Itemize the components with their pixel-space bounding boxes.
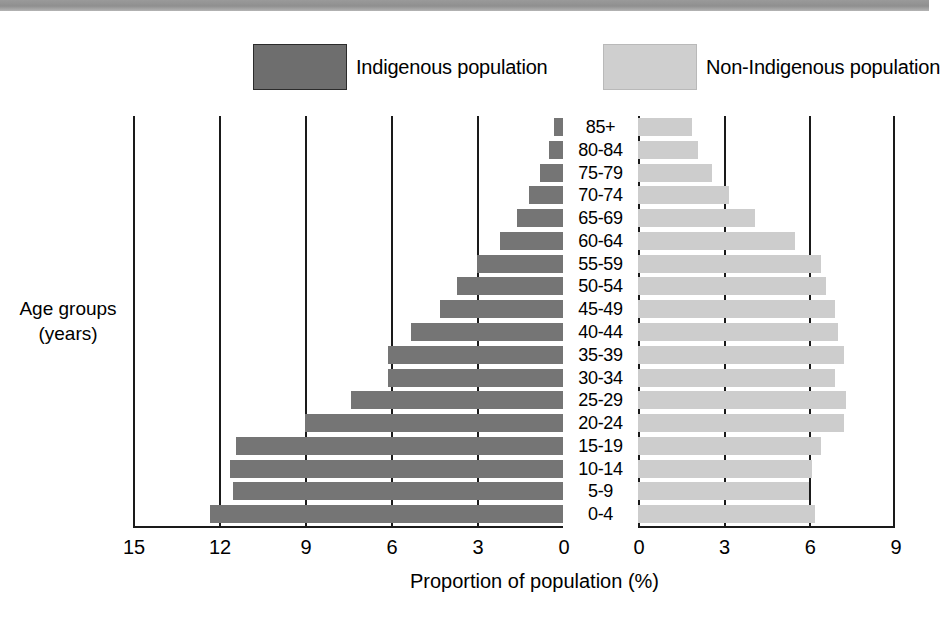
bar-row-indigenous-10-14 <box>133 458 563 481</box>
bar-row-nonindigenous-70-74 <box>638 184 895 207</box>
tick-label-left-12: 12 <box>200 536 240 559</box>
bar-row-indigenous-0-4 <box>133 503 563 526</box>
bar-indigenous-60-64 <box>500 232 563 250</box>
bar-indigenous-80-84 <box>549 141 563 159</box>
age-group-label-65-69: 65-69 <box>563 207 638 230</box>
age-group-label-55-59: 55-59 <box>563 253 638 276</box>
tick-label-left-0: 0 <box>544 536 584 559</box>
bar-indigenous-55-59 <box>477 255 563 273</box>
bar-nonindigenous-0-4 <box>638 505 815 523</box>
bar-row-nonindigenous-45-49 <box>638 298 895 321</box>
bar-indigenous-0-4 <box>210 505 563 523</box>
age-group-label-70-74: 70-74 <box>563 184 638 207</box>
bar-row-indigenous-25-29 <box>133 389 563 412</box>
age-group-label-50-54: 50-54 <box>563 275 638 298</box>
y-axis-title-line1: Age groups <box>8 296 128 321</box>
legend-swatch-nonindigenous <box>603 44 697 90</box>
bar-indigenous-85+ <box>554 118 563 136</box>
age-group-label-45-49: 45-49 <box>563 298 638 321</box>
bar-row-indigenous-5-9 <box>133 480 563 503</box>
bar-nonindigenous-30-34 <box>638 369 835 387</box>
age-group-label-20-24: 20-24 <box>563 412 638 435</box>
bar-indigenous-15-19 <box>236 437 563 455</box>
bar-row-nonindigenous-35-39 <box>638 344 895 367</box>
age-group-label-60-64: 60-64 <box>563 230 638 253</box>
bar-nonindigenous-20-24 <box>638 414 844 432</box>
bar-indigenous-10-14 <box>230 460 563 478</box>
bar-indigenous-50-54 <box>457 277 563 295</box>
age-group-label-35-39: 35-39 <box>563 344 638 367</box>
bar-row-indigenous-60-64 <box>133 230 563 253</box>
bar-row-indigenous-80-84 <box>133 139 563 162</box>
bar-row-nonindigenous-20-24 <box>638 412 895 435</box>
bar-indigenous-35-39 <box>388 346 563 364</box>
bar-nonindigenous-85+ <box>638 118 692 136</box>
tick-label-right-3: 3 <box>705 536 745 559</box>
tick-label-right-0: 0 <box>619 536 659 559</box>
legend-label-nonindigenous: Non-Indigenous population <box>706 56 940 79</box>
bar-nonindigenous-55-59 <box>638 255 821 273</box>
bar-row-indigenous-20-24 <box>133 412 563 435</box>
y-axis-title-line2: (years) <box>8 321 128 346</box>
legend-swatch-indigenous <box>253 44 347 90</box>
tick-label-left-9: 9 <box>286 536 326 559</box>
tick-label-right-6: 6 <box>790 536 830 559</box>
bar-nonindigenous-5-9 <box>638 482 809 500</box>
bar-nonindigenous-65-69 <box>638 209 755 227</box>
bar-row-nonindigenous-15-19 <box>638 435 895 458</box>
tick-label-right-9: 9 <box>876 536 916 559</box>
bar-row-nonindigenous-75-79 <box>638 162 895 185</box>
top-banner <box>0 0 929 11</box>
bar-indigenous-30-34 <box>388 369 563 387</box>
bar-indigenous-45-49 <box>440 300 563 318</box>
bar-nonindigenous-50-54 <box>638 277 826 295</box>
legend-item-nonindigenous: Non-Indigenous population <box>603 44 940 90</box>
bar-nonindigenous-15-19 <box>638 437 821 455</box>
bar-nonindigenous-40-44 <box>638 323 838 341</box>
age-group-label-80-84: 80-84 <box>563 139 638 162</box>
bar-row-indigenous-75-79 <box>133 162 563 185</box>
bar-row-indigenous-65-69 <box>133 207 563 230</box>
bar-row-indigenous-55-59 <box>133 253 563 276</box>
tick-label-left-6: 6 <box>372 536 412 559</box>
x-axis-title: Proportion of population (%) <box>0 570 929 593</box>
bar-row-nonindigenous-50-54 <box>638 275 895 298</box>
age-group-label-0-4: 0-4 <box>563 503 638 526</box>
tick-label-left-3: 3 <box>458 536 498 559</box>
bar-row-indigenous-30-34 <box>133 367 563 390</box>
age-group-label-25-29: 25-29 <box>563 389 638 412</box>
bar-row-nonindigenous-55-59 <box>638 253 895 276</box>
bar-nonindigenous-75-79 <box>638 164 712 182</box>
bar-nonindigenous-45-49 <box>638 300 835 318</box>
bar-row-indigenous-85+ <box>133 116 563 139</box>
age-group-label-30-34: 30-34 <box>563 367 638 390</box>
bar-row-nonindigenous-25-29 <box>638 389 895 412</box>
bar-indigenous-5-9 <box>233 482 563 500</box>
bar-row-nonindigenous-65-69 <box>638 207 895 230</box>
bars-indigenous <box>133 116 563 526</box>
age-group-labels: 85+80-8475-7970-7465-6960-6455-5950-5445… <box>563 116 638 528</box>
chart-legend: Indigenous population Non-Indigenous pop… <box>0 44 929 90</box>
bar-nonindigenous-60-64 <box>638 232 795 250</box>
bar-row-nonindigenous-0-4 <box>638 503 895 526</box>
bar-nonindigenous-80-84 <box>638 141 698 159</box>
bar-row-nonindigenous-30-34 <box>638 367 895 390</box>
age-group-label-40-44: 40-44 <box>563 321 638 344</box>
age-group-label-5-9: 5-9 <box>563 480 638 503</box>
bar-indigenous-65-69 <box>517 209 563 227</box>
legend-item-indigenous: Indigenous population <box>253 44 548 90</box>
bar-indigenous-25-29 <box>351 391 563 409</box>
bars-nonindigenous <box>638 116 895 526</box>
age-group-label-85+: 85+ <box>563 116 638 139</box>
bar-row-nonindigenous-10-14 <box>638 458 895 481</box>
x-axis-title-text: Proportion of population (%) <box>410 570 659 593</box>
age-group-label-75-79: 75-79 <box>563 162 638 185</box>
bar-nonindigenous-70-74 <box>638 186 729 204</box>
bar-row-indigenous-45-49 <box>133 298 563 321</box>
bar-row-nonindigenous-60-64 <box>638 230 895 253</box>
bar-row-nonindigenous-80-84 <box>638 139 895 162</box>
bar-indigenous-20-24 <box>305 414 563 432</box>
bar-nonindigenous-25-29 <box>638 391 846 409</box>
age-group-label-15-19: 15-19 <box>563 435 638 458</box>
bar-row-indigenous-35-39 <box>133 344 563 367</box>
